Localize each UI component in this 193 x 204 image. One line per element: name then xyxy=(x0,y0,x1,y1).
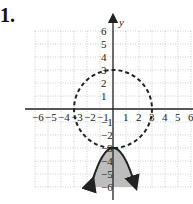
y-tick-label: −1 xyxy=(101,116,113,128)
graph: −6−5−4−3−2−1123456654321−1−2−3−4−5−6y xyxy=(0,0,193,204)
y-tick-label: 5 xyxy=(101,38,107,50)
x-tick-label: 6 xyxy=(188,111,193,123)
y-tick-label: 2 xyxy=(101,77,107,89)
y-tick-label: −5 xyxy=(101,168,113,180)
y-tick-label: −3 xyxy=(101,142,113,154)
y-tick-label: −2 xyxy=(101,129,113,141)
x-tick-label: 5 xyxy=(175,111,181,123)
x-tick-label: −5 xyxy=(45,111,57,123)
x-tick-label: 3 xyxy=(149,111,155,123)
x-tick-label: 1 xyxy=(123,111,129,123)
y-tick-label: −4 xyxy=(101,155,113,167)
x-tick-label: −6 xyxy=(32,111,44,123)
x-tick-label: 2 xyxy=(136,111,142,123)
y-tick-label: 1 xyxy=(101,90,107,102)
x-tick-label: −3 xyxy=(71,111,83,123)
y-tick-label: 6 xyxy=(101,25,107,37)
y-tick-label: −6 xyxy=(101,181,113,193)
y-tick-label: 3 xyxy=(101,64,107,76)
y-tick-label: 4 xyxy=(101,51,107,63)
x-tick-label: −4 xyxy=(58,111,70,123)
y-axis-label: y xyxy=(118,16,124,28)
x-tick-label: 4 xyxy=(162,111,168,123)
x-tick-label: −2 xyxy=(84,111,96,123)
